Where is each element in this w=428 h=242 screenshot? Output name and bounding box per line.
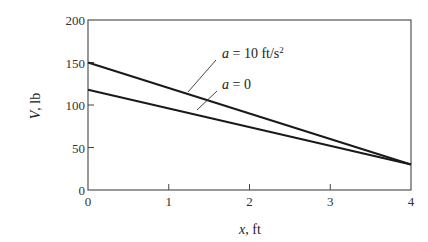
y-tick-label: 50 (72, 141, 85, 156)
series-annotation: a = 0 (222, 77, 251, 92)
x-axis-label: x, ft (238, 222, 261, 237)
series-annotations: a = 10 ft/s2a = 0 (188, 45, 284, 110)
x-tick-label: 2 (246, 194, 253, 209)
x-tick-label: 1 (166, 194, 173, 209)
y-axis-ticks: 050100150200 (66, 13, 95, 198)
y-tick-label: 200 (66, 13, 86, 28)
annotation-leader-line (188, 60, 216, 92)
x-tick-label: 3 (327, 194, 334, 209)
series-annotation: a = 10 ft/s2 (222, 45, 284, 61)
x-tick-label: 4 (408, 194, 415, 209)
y-tick-label: 150 (66, 56, 86, 71)
chart: 050100150200 01234 a = 10 ft/s2a = 0 x, … (0, 0, 428, 242)
y-axis-label: V, lb (28, 93, 43, 119)
annotation-leader-line (197, 91, 217, 110)
x-axis-ticks: 01234 (85, 184, 415, 209)
x-tick-label: 0 (85, 194, 92, 209)
series-line-1 (88, 90, 411, 165)
y-tick-label: 100 (66, 98, 86, 113)
